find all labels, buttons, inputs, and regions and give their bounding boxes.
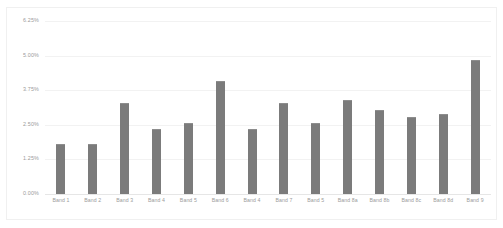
bar-slot [395, 21, 427, 194]
x-axis-tick-label: Band 1 [45, 196, 77, 203]
x-axis-tick-label: Band 4 [141, 196, 173, 203]
x-axis-tick-label: Band 7 [268, 196, 300, 203]
bar-slot [204, 21, 236, 194]
bar[interactable] [248, 129, 257, 194]
bar[interactable] [120, 103, 129, 194]
bar[interactable] [471, 60, 480, 194]
x-axis-tick-labels: Band 1Band 2Band 3Band 4Band 5Band 6Band… [45, 196, 491, 210]
bar-slot [427, 21, 459, 194]
bar[interactable] [216, 81, 225, 194]
bar-slot [332, 21, 364, 194]
x-axis-tick-label: Band 4 [236, 196, 268, 203]
bar[interactable] [407, 117, 416, 195]
axis-baseline: 0.00% [45, 194, 491, 195]
bar-slot [364, 21, 396, 194]
y-axis-tick-label: 3.75% [23, 87, 39, 92]
y-axis-tick-label: 0.00% [23, 191, 39, 196]
bar[interactable] [375, 110, 384, 194]
bars-group [45, 21, 491, 194]
bar[interactable] [311, 123, 320, 194]
chart-container: 0.00%1.25%2.50%3.75%5.00%6.25% Band 1Ban… [0, 0, 503, 228]
y-axis-tick-label: 6.25% [23, 18, 39, 23]
x-axis-tick-label: Band 5 [300, 196, 332, 203]
plot-area: 0.00%1.25%2.50%3.75%5.00%6.25% [45, 21, 491, 194]
y-axis-tick-label: 1.25% [23, 157, 39, 162]
x-axis-tick-label: Band 9 [459, 196, 491, 203]
y-axis-tick-label: 2.50% [23, 122, 39, 127]
bar-slot [45, 21, 77, 194]
bar-slot [141, 21, 173, 194]
bar-slot [459, 21, 491, 194]
bar-slot [300, 21, 332, 194]
bar[interactable] [184, 123, 193, 194]
x-axis-tick-label: Band 6 [204, 196, 236, 203]
x-axis-tick-label: Band 8c [395, 196, 427, 203]
bar-slot [236, 21, 268, 194]
bar-slot [77, 21, 109, 194]
bar-slot [172, 21, 204, 194]
bar-slot [109, 21, 141, 194]
x-axis-tick-label: Band 8b [364, 196, 396, 203]
bar[interactable] [88, 144, 97, 194]
bar[interactable] [343, 100, 352, 194]
x-axis-tick-label: Band 3 [109, 196, 141, 203]
bar[interactable] [439, 114, 448, 194]
x-axis-tick-label: Band 8a [332, 196, 364, 203]
bar[interactable] [279, 103, 288, 194]
x-axis-tick-label: Band 5 [172, 196, 204, 203]
bar-slot [268, 21, 300, 194]
bar[interactable] [152, 129, 161, 194]
y-axis-tick-label: 5.00% [23, 53, 39, 58]
bar[interactable] [56, 144, 65, 194]
x-axis-tick-label: Band 2 [77, 196, 109, 203]
x-axis-tick-label: Band 8d [427, 196, 459, 203]
